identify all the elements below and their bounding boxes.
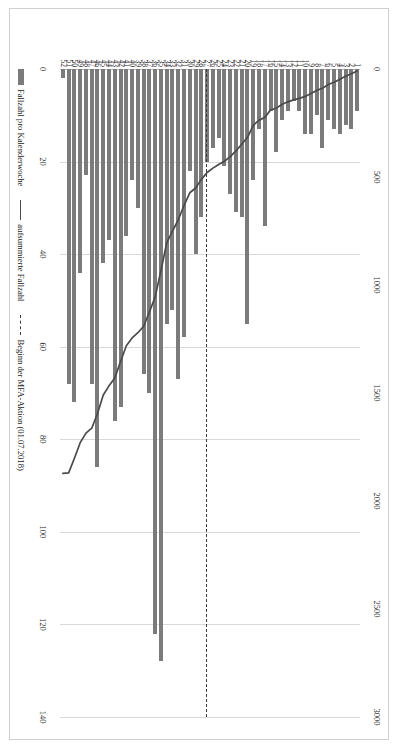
bar [171,69,175,310]
bar [72,69,76,402]
bar [240,69,244,217]
bar [228,69,232,194]
intervention-marker-line [206,69,207,717]
bar [107,69,111,240]
bar [217,69,221,138]
bar [119,69,123,407]
bar [199,69,203,217]
primary-tick-label: 0 [38,67,48,71]
bar [222,69,226,166]
bar [257,69,261,129]
chart-stage: 050010001500200025003000 020406080100120… [0,0,399,748]
primary-tick-label: 40 [38,250,48,259]
category-axis-labels: 1234567891011121314151617181920212223242… [60,55,360,69]
bar [303,69,307,134]
bar [349,69,353,129]
bar [84,69,88,175]
secondary-tick-label: 2000 [372,493,382,510]
bar [165,69,169,324]
bar [182,69,186,337]
bar [61,69,65,78]
bar [159,69,163,661]
primary-tick-label: 20 [38,157,48,166]
bar [96,69,100,467]
bar [194,69,198,254]
bar [90,69,94,384]
gridline [60,717,360,718]
bar [280,69,284,120]
bar [101,69,105,263]
primary-tick-label: 140 [38,711,48,724]
bar [263,69,267,226]
secondary-tick-label: 2500 [372,601,382,618]
dashed-swatch-icon [21,315,22,335]
bar [142,69,146,374]
bar [286,69,290,111]
category-label: 52 [59,55,68,67]
bar [321,69,325,148]
primary-tick-label: 80 [38,435,48,444]
bar-series [60,69,360,717]
line-swatch-icon [21,200,22,220]
bar [344,69,348,125]
secondary-tick-label: 3000 [372,709,382,726]
bar [211,69,215,148]
legend-label-bar: Fallzahl pro Kalenderwoche [16,89,26,186]
legend-label-annotation: Beginn der MFA-Aktion (01.07.2018) [16,339,26,470]
bar [234,69,238,212]
primary-tick-label: 120 [38,618,48,631]
bar [188,69,192,171]
bar [338,69,342,134]
bar [297,69,301,111]
primary-tick-label: 60 [38,342,48,351]
bar [113,69,117,421]
legend-item-line: aufsummierte Fallzahl [16,200,26,301]
bar [78,69,82,273]
bar [269,69,273,111]
primary-tick-label: 100 [38,525,48,538]
bar [147,69,151,393]
bar [153,69,157,634]
bar [251,69,255,180]
bar [130,69,134,180]
bar [315,69,319,115]
bar [326,69,330,120]
bar [136,69,140,208]
chart-legend: Fallzahl pro Kalenderwoche aufsummierte … [16,69,26,471]
bar [332,69,336,129]
bar [176,69,180,379]
bar [355,69,359,111]
legend-item-annotation: Beginn der MFA-Aktion (01.07.2018) [16,315,26,470]
secondary-tick-label: 1000 [372,277,382,294]
bar [309,69,313,134]
bar [246,69,250,324]
secondary-tick-label: 1500 [372,385,382,402]
bar-swatch-icon [18,69,24,85]
bar [67,69,71,384]
legend-item-bar: Fallzahl pro Kalenderwoche [16,69,26,186]
secondary-tick-label: 500 [372,171,382,184]
bar [124,69,128,236]
plot-area: 050010001500200025003000 020406080100120… [60,69,360,717]
bar [292,69,296,101]
chart-frame: 050010001500200025003000 020406080100120… [9,8,389,740]
secondary-tick-label: 0 [372,67,382,71]
bar [274,69,278,152]
legend-label-line: aufsummierte Fallzahl [16,224,26,301]
